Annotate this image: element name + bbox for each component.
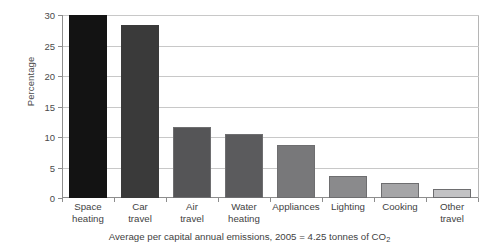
caption-subscript: 2: [386, 235, 390, 244]
x-axis-category-labels: SpaceheatingCartravelAirtravelWaterheati…: [62, 201, 479, 229]
category-label-line: Space: [58, 201, 118, 213]
category-label-line: travel: [162, 213, 222, 225]
y-tick-label: 5: [50, 162, 55, 173]
bar: [433, 189, 470, 198]
category-label-line: Lighting: [318, 201, 378, 213]
category-label-line: Water: [214, 201, 274, 213]
bar: [381, 183, 418, 198]
category-label-line: Appliances: [266, 201, 326, 213]
bar: [225, 134, 262, 198]
bar: [329, 176, 366, 198]
y-tick-mark: [58, 137, 62, 138]
x-axis-category-label: Othertravel: [422, 201, 482, 224]
chart-caption: Average per capital annual emissions, 20…: [0, 231, 499, 242]
category-label-line: Cooking: [370, 201, 430, 213]
y-axis-title: Percentage: [25, 22, 36, 142]
x-axis-category-label: Lighting: [318, 201, 378, 213]
category-label-line: heating: [214, 213, 274, 225]
x-axis-category-label: Airtravel: [162, 201, 222, 224]
bar: [277, 145, 314, 198]
y-tick-mark: [58, 76, 62, 77]
bar: [69, 15, 106, 198]
category-label-line: Other: [422, 201, 482, 213]
plot-area: 051015202530: [62, 15, 478, 198]
y-tick-label: 15: [44, 101, 55, 112]
y-tick-label: 20: [44, 71, 55, 82]
y-tick-mark: [58, 107, 62, 108]
category-label-line: Air: [162, 201, 222, 213]
category-label-line: travel: [422, 213, 482, 225]
y-tick-mark: [58, 46, 62, 47]
category-label-line: travel: [110, 213, 170, 225]
x-axis-category-label: Cooking: [370, 201, 430, 213]
y-tick-label: 0: [50, 193, 55, 204]
caption-text: Average per capital annual emissions, 20…: [109, 231, 386, 242]
y-tick-label: 10: [44, 132, 55, 143]
x-axis-category-label: Appliances: [266, 201, 326, 213]
bar-chart-figure: Percentage 051015202530 SpaceheatingCart…: [0, 0, 499, 251]
x-axis-category-label: Cartravel: [110, 201, 170, 224]
bar: [173, 127, 210, 198]
y-tick-label: 25: [44, 40, 55, 51]
gridline: [63, 15, 479, 16]
y-tick-label: 30: [44, 10, 55, 21]
category-label-line: heating: [58, 213, 118, 225]
y-tick-mark: [58, 15, 62, 16]
x-axis-category-label: Spaceheating: [58, 201, 118, 224]
x-axis-category-label: Waterheating: [214, 201, 274, 224]
y-tick-mark: [58, 168, 62, 169]
category-label-line: Car: [110, 201, 170, 213]
bar: [121, 25, 158, 198]
